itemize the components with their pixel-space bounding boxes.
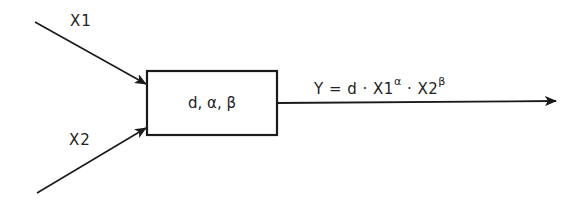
formula-exponent-alpha: α [394,75,402,88]
block-parameters-label: d, α, β [147,94,277,112]
formula-mid: · X2 [402,80,439,98]
input-arrow-x1 [35,22,146,84]
formula-exponent-beta: β [438,75,446,88]
diagram-canvas [0,0,581,201]
input-arrow-x2 [37,128,146,193]
output-formula: Y = d · X1α · X2β [314,78,446,98]
input-label-x2: X2 [69,131,91,149]
formula-lhs: Y = d · X1 [314,80,394,98]
input-label-x1: X1 [70,12,92,30]
output-arrow [277,101,556,103]
